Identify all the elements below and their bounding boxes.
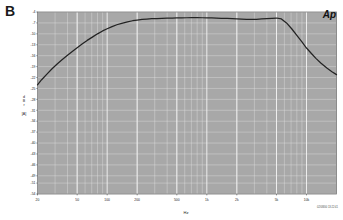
plot-area-wrapper: -4-7-10-13-16-19-22-25-28-31-34-37-40-43… (0, 0, 343, 220)
y-axis-title-char: r (23, 103, 25, 107)
y-tick-label: -19 (31, 65, 36, 69)
plot-background (38, 12, 337, 194)
y-tick-label: -16 (31, 54, 36, 58)
y-axis-title: dBr[A] (22, 95, 26, 116)
y-tick-label: -43 (31, 152, 36, 156)
y-tick-label: -31 (31, 109, 36, 113)
y-tick-label: -28 (31, 98, 36, 102)
x-tick-label: 2k (235, 198, 239, 202)
x-tick-label: 20 (36, 198, 40, 202)
x-tick-label: 5k (275, 198, 279, 202)
y-tick-label: -10 (31, 32, 36, 36)
y-tick-label: -46 (31, 163, 36, 167)
x-tick-label: 100 (104, 198, 110, 202)
y-tick-label: -4 (32, 10, 35, 14)
y-tick-label: -49 (31, 174, 36, 178)
y-tick-label: -40 (31, 141, 36, 145)
audio-precision-logo: Ap (322, 9, 336, 20)
x-tick-label: 200 (134, 198, 140, 202)
x-axis-title: Hz (184, 210, 189, 215)
y-tick-label: -25 (31, 87, 36, 91)
x-tick-label: 500 (174, 198, 180, 202)
timestamp-footnote: 02/08/00 13:22:41 (317, 205, 338, 209)
y-axis-title-suffix: [A] (22, 112, 26, 116)
y-tick-label: -37 (31, 130, 36, 134)
y-tick-label: -34 (31, 119, 36, 123)
frequency-response-chart: -4-7-10-13-16-19-22-25-28-31-34-37-40-43… (0, 0, 343, 220)
x-tick-label: 10k (304, 198, 310, 202)
y-tick-label: -54 (31, 192, 36, 196)
y-tick-label: -13 (31, 43, 36, 47)
y-tick-label: -51 (31, 181, 36, 185)
x-axis-tick-labels: 20501002005001k2k5k10k (36, 194, 310, 202)
y-tick-label: -22 (31, 76, 36, 80)
x-tick-label: 50 (75, 198, 79, 202)
x-tick-label: 1k (205, 198, 209, 202)
y-axis-tick-labels: -4-7-10-13-16-19-22-25-28-31-34-37-40-43… (31, 10, 38, 196)
figure-container: B -4-7-10-13-16-19-22-25-28-31-34-37-40-… (0, 0, 343, 220)
y-tick-label: -7 (32, 21, 35, 25)
